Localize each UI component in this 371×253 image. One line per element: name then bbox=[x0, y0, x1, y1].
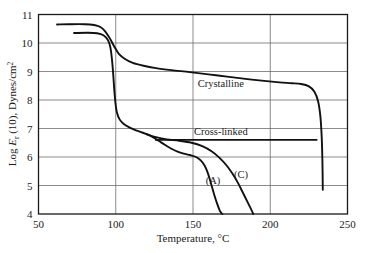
y-axis-tick-labels: 4567891011 bbox=[22, 9, 34, 221]
x-axis-title: Temperature, °C bbox=[157, 232, 230, 244]
y-tick-label: 10 bbox=[22, 37, 34, 49]
curve-amorphous-trunk bbox=[74, 33, 147, 134]
y-axis-title-superscript: 2 bbox=[6, 61, 15, 65]
annotation-crystalline: Crystalline bbox=[198, 78, 244, 89]
annotation-a: (A) bbox=[206, 175, 221, 187]
x-tick-label: 150 bbox=[185, 218, 202, 230]
y-axis-title-lead: Log bbox=[6, 146, 18, 166]
annotation-c: (C) bbox=[234, 169, 249, 181]
x-tick-label: 50 bbox=[33, 218, 45, 230]
curve-annotations-group: CrystallineCross-linked(A)(C) bbox=[194, 78, 248, 187]
y-tick-label: 9 bbox=[27, 66, 33, 78]
y-axis-title: Log Er (10), Dynes/cm2 bbox=[6, 61, 21, 166]
y-tick-label: 5 bbox=[27, 180, 33, 192]
y-tick-label: 11 bbox=[22, 9, 33, 21]
y-tick-label: 6 bbox=[27, 151, 33, 163]
y-axis-title-mid: (10), Dynes/cm bbox=[6, 65, 19, 137]
x-axis-tick-labels: 50100150200250 bbox=[33, 218, 356, 230]
curve-crystalline bbox=[57, 24, 323, 190]
modulus-temperature-chart: 4567891011 50100150200250 CrystallineCro… bbox=[0, 0, 371, 253]
annotation-cross-linked: Cross-linked bbox=[194, 126, 248, 137]
x-tick-label: 250 bbox=[339, 218, 356, 230]
x-tick-label: 200 bbox=[262, 218, 279, 230]
svg-text:Log Er (10), Dynes/cm2: Log Er (10), Dynes/cm2 bbox=[6, 61, 21, 166]
chart-container: 4567891011 50100150200250 CrystallineCro… bbox=[0, 0, 371, 253]
y-tick-label: 8 bbox=[27, 94, 33, 106]
x-tick-label: 100 bbox=[108, 218, 125, 230]
y-tick-label: 7 bbox=[27, 123, 33, 135]
gridlines-group bbox=[39, 15, 348, 215]
